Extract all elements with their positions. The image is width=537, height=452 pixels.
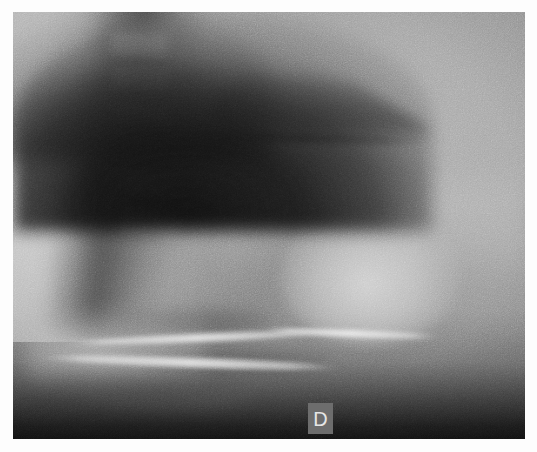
shoulder-dense-shadow	[13, 12, 433, 232]
air-wedge-inferior-border	[201, 131, 431, 146]
vertebral-body	[111, 33, 168, 59]
vertebral-body	[114, 101, 171, 128]
air-wedge-fill	[209, 68, 433, 154]
side-marker-letter: D	[313, 409, 327, 429]
pharyngeal-air-wedge	[209, 68, 433, 154]
radiograph-film: D	[13, 12, 525, 439]
radiograph-viewer: D	[0, 0, 537, 452]
side-marker: D	[308, 403, 333, 434]
vertebral-body	[118, 168, 178, 198]
vertebral-body	[113, 67, 170, 93]
vertebral-body	[116, 134, 173, 161]
rounded-opaque-mass	[281, 208, 459, 344]
pharyngeal-lucent-band	[223, 162, 523, 282]
vertebral-body	[120, 206, 180, 236]
